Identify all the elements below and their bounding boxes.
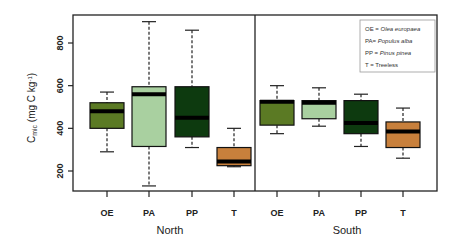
legend: OE = Olea europaeaPA= Populus albaPP = P…: [360, 20, 435, 72]
legend-entry: PP = Pinus pinea: [365, 50, 412, 56]
group-label-north: North: [157, 224, 184, 236]
box-north-t: [217, 128, 251, 166]
box-south-pa: [302, 88, 336, 126]
box-north-pp: [175, 30, 209, 147]
x-tick-label: T: [400, 208, 406, 218]
x-tick-label: OE: [100, 208, 113, 218]
iqr-box: [386, 122, 420, 148]
y-tick-label: 600: [55, 78, 65, 93]
iqr-box: [260, 101, 294, 126]
y-tick-label: 200: [55, 163, 65, 178]
x-tick-label: PP: [186, 208, 198, 218]
group-label-south: South: [333, 224, 362, 236]
iqr-box: [175, 87, 209, 137]
y-axis-label: Cmic (mg C kg-1): [26, 73, 38, 143]
legend-entry: PA= Populus alba: [365, 38, 413, 44]
box-south-t: [386, 108, 420, 158]
box-south-pp: [344, 94, 378, 146]
y-tick-label: 800: [55, 35, 65, 50]
x-tick-label: OE: [270, 208, 283, 218]
legend-entry: OE = Olea europaea: [365, 26, 421, 32]
x-tick-label: T: [231, 208, 237, 218]
box-south-oe: [260, 86, 294, 134]
x-tick-label: PA: [313, 208, 325, 218]
x-tick-label: PP: [355, 208, 367, 218]
x-axis: OEPAPPTOEPAPPTNorthSouth: [100, 191, 406, 236]
iqr-box: [90, 103, 124, 129]
x-tick-label: PA: [143, 208, 155, 218]
y-axis: 200400600800: [55, 35, 73, 178]
iqr-box: [344, 101, 378, 134]
box-north-oe: [90, 92, 124, 152]
boxplot-chart: 200400600800 Cmic (mg C kg-1) OEPAPPTOEP…: [0, 0, 454, 252]
box-north-pa: [132, 22, 166, 186]
y-tick-label: 400: [55, 121, 65, 136]
legend-entry: T = Treeless: [365, 62, 398, 68]
